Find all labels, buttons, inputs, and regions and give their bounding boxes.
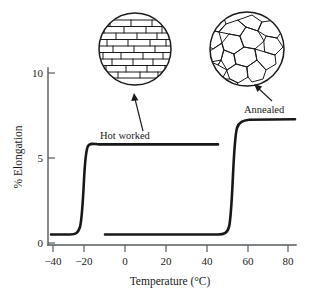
x-tick-label-20: 20 (161, 255, 173, 267)
x-tick-label-60: 60 (243, 255, 255, 267)
x-axis-ticks (53, 245, 288, 252)
y-tick-label-5: 5 (38, 152, 44, 164)
hot-worked-micrograph (99, 13, 171, 85)
x-tick-label-80: 80 (283, 255, 295, 267)
y-axis-title: % Elongation (12, 125, 25, 188)
hot-worked-arrowhead-icon (131, 93, 138, 101)
hot-worked-annotation: Hot worked (100, 93, 151, 141)
hot-worked-leader-line (135, 99, 143, 131)
annealed-micrograph (204, 12, 284, 90)
hot-worked-label: Hot worked (100, 130, 151, 141)
curve-hot-worked (51, 144, 218, 235)
annealed-micrograph-border (210, 12, 284, 86)
x-tick-label-minus20: −20 (75, 255, 93, 267)
annealed-label: Annealed (244, 104, 285, 115)
x-tick-label-minus40: −40 (44, 255, 62, 267)
y-axis-ticks (48, 73, 55, 243)
chart-canvas: 0 5 10 −40 −20 0 20 40 60 80 Temperature… (0, 0, 313, 295)
y-tick-label-10: 10 (32, 67, 44, 79)
x-tick-label-0: 0 (122, 255, 128, 267)
x-axis-title: Temperature (°C) (130, 275, 211, 288)
y-tick-label-0: 0 (38, 237, 44, 249)
annealed-annotation: Annealed (244, 84, 285, 115)
annealed-leader-line (258, 88, 272, 101)
x-tick-label-40: 40 (202, 255, 214, 267)
